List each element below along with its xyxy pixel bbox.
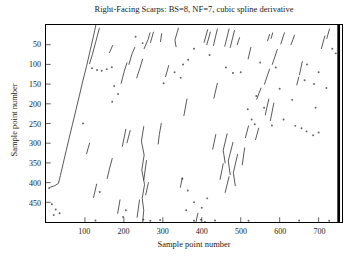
scarp-segment — [129, 47, 135, 64]
scarp-segment — [272, 49, 277, 64]
scarp-segment — [121, 63, 127, 83]
scarp-segment — [214, 83, 218, 98]
scarp-segment — [300, 62, 303, 75]
scarp-dot — [142, 42, 144, 44]
right-edge-bar — [337, 25, 340, 222]
scarp-segment — [264, 69, 269, 84]
scarp-dot — [106, 68, 108, 70]
scarp-dot — [209, 54, 211, 56]
y-tick-label: 100 — [0, 59, 41, 68]
scarp-segment — [233, 154, 237, 186]
scarp-segment — [184, 99, 187, 116]
scarp-segment — [223, 134, 227, 163]
scarp-segment — [265, 99, 269, 115]
x-tick-label: 400 — [196, 227, 208, 236]
scarp-dot — [111, 101, 113, 103]
scarp-segment — [141, 127, 144, 222]
scarp-dot — [59, 212, 61, 214]
scarp-dot — [187, 189, 189, 191]
chart-title: Right-Facing Scarps: BS=8, NF=7, cubic s… — [45, 4, 343, 14]
scarp-segment — [137, 59, 143, 78]
scarp-dot — [96, 69, 98, 71]
plot-canvas — [46, 25, 342, 222]
scarp-segment — [196, 213, 198, 222]
scarp-dot — [254, 123, 256, 125]
scarp-dot — [251, 119, 253, 121]
scarp-dot — [259, 61, 261, 63]
scarp-segment — [175, 28, 179, 47]
scarp-dot — [279, 88, 281, 90]
y-tick-label: 50 — [0, 39, 41, 48]
scarp-dot — [111, 66, 113, 68]
scarp-dot — [51, 203, 53, 205]
scarp-segment — [321, 36, 325, 49]
y-tick-label: 350 — [0, 159, 41, 168]
x-tick-label: 300 — [157, 227, 169, 236]
scarp-segment — [270, 103, 274, 121]
scarp-dot — [174, 71, 176, 73]
scarp-segment — [122, 129, 126, 146]
scarp-dot — [232, 72, 234, 74]
scarp-dot — [214, 219, 216, 221]
scarp-dot — [271, 124, 273, 126]
y-tick-label: 300 — [0, 139, 41, 148]
scarp-segment — [245, 126, 248, 138]
scarp-dot — [180, 77, 182, 79]
scarp-dot — [283, 119, 285, 121]
scarp-segment — [144, 33, 150, 49]
scarp-dot — [206, 197, 208, 199]
scarp-segment — [144, 161, 147, 181]
scarp-dot — [159, 219, 161, 221]
scarp-dot — [312, 134, 314, 136]
scarp-dot — [193, 201, 195, 203]
scarp-segment — [213, 29, 217, 46]
scarp-segment — [207, 32, 211, 45]
scarp-segment — [237, 38, 239, 45]
scarp-segment — [158, 124, 161, 144]
scarp-dot — [201, 207, 203, 209]
scarp-dot — [331, 48, 333, 50]
y-tick-label: 150 — [0, 79, 41, 88]
scarp-dot — [125, 209, 127, 211]
x-axis-ticks: 100200300400500600700 — [45, 227, 343, 238]
figure: Right-Facing Scarps: BS=8, NF=7, cubic s… — [0, 0, 361, 261]
scarp-segment — [107, 159, 112, 179]
scarp-dot — [181, 178, 183, 180]
scarp-dot — [306, 63, 308, 65]
y-tick-label: 450 — [0, 199, 41, 208]
scarp-dot — [325, 87, 327, 89]
scarp-segment — [225, 177, 229, 193]
y-tick-label: 200 — [0, 99, 41, 108]
x-tick-label: 500 — [235, 227, 247, 236]
scarp-dot — [91, 67, 93, 69]
scarp-dot — [328, 220, 330, 222]
scarp-dot — [263, 107, 265, 109]
scarp-dot — [48, 187, 50, 189]
scarp-segment — [220, 164, 223, 180]
x-tick-label: 100 — [78, 227, 90, 236]
scarp-segment — [87, 143, 90, 154]
scarp-segment — [281, 33, 285, 44]
plot-area — [45, 24, 343, 223]
scarp-segment — [94, 184, 97, 197]
scarp-segment — [50, 25, 96, 187]
x-tick-label: 600 — [274, 227, 286, 236]
scarp-dot — [113, 85, 115, 87]
scarp-segment — [297, 77, 299, 85]
scarp-dot — [318, 132, 320, 134]
scarp-dot — [135, 36, 137, 38]
scarp-segment — [127, 131, 130, 143]
scarp-segment — [228, 142, 233, 174]
scarp-dot — [225, 67, 227, 69]
scarp-dot — [185, 209, 187, 211]
scarp-segment — [248, 47, 251, 58]
scarp-segment — [271, 33, 273, 39]
scarp-dot — [335, 52, 337, 54]
scarp-dot — [301, 127, 303, 129]
scarp-segment — [256, 128, 259, 139]
scarp-dot — [318, 71, 320, 73]
scarp-dot — [255, 95, 257, 97]
y-tick-label: 250 — [0, 119, 41, 128]
scarp-dot — [163, 82, 165, 84]
scarp-dot — [248, 220, 250, 222]
